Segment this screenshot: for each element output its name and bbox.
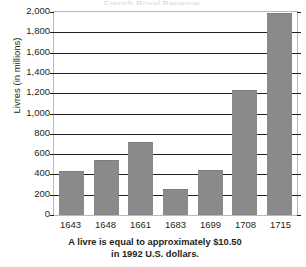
y-tick-label: 1,000 [14,108,50,118]
y-tick-label: 1,200 [14,87,50,97]
x-tick-label: 1643 [53,219,88,230]
y-tick-mark-right [297,12,301,13]
y-tick-mark-right [297,93,301,94]
bar-1699[interactable] [198,170,223,215]
y-tick-label: 200 [14,189,50,199]
y-tick-mark-right [297,53,301,54]
y-tick-label: 600 [14,148,50,158]
x-tick-label: 1683 [158,219,193,230]
bar-1643[interactable] [59,171,84,215]
y-tick-label: 2,000 [14,6,50,16]
bar-slot [193,12,228,215]
y-tick-label: 0 [14,209,50,219]
x-tick-label: 1699 [193,219,228,230]
x-tick-label: 1715 [263,219,298,230]
y-tick-label: 1,800 [14,26,50,36]
y-axis-tick-labels: 02004006008001,0001,2001,4001,6001,8002,… [14,6,50,220]
y-tick-mark-right [297,134,301,135]
bar-slot [228,12,263,215]
bar-1715[interactable] [267,13,292,215]
y-tick-mark-right [297,195,301,196]
y-tick-mark-right [297,174,301,175]
clipped-chart-title: French Royal Revenue [62,0,242,5]
bar-1661[interactable] [128,142,153,215]
y-tick-mark-left [50,215,54,216]
y-tick-label: 800 [14,128,50,138]
bar-slot [123,12,158,215]
y-tick-label: 400 [14,168,50,178]
figure-caption: A livre is equal to approximately $10.50… [24,237,286,260]
y-tick-label: 1,400 [14,67,50,77]
bar-slot [89,12,124,215]
bar-1648[interactable] [94,160,119,215]
x-tick-label: 1648 [88,219,123,230]
bar-1683[interactable] [163,189,188,215]
bar-chart-figure: French Royal Revenue Livres (in millions… [0,0,306,267]
x-tick-label: 1708 [228,219,263,230]
caption-line-1: A livre is equal to approximately $10.50 [24,237,286,249]
x-tick-label: 1661 [123,219,158,230]
y-tick-label: 1,600 [14,47,50,57]
bar-slot [158,12,193,215]
x-axis-tick-labels: 1643164816611683169917081715 [53,219,298,230]
bar-slot [54,12,89,215]
bars-group [54,12,297,215]
bar-1708[interactable] [232,90,257,215]
plot-area [53,11,298,216]
y-tick-mark-right [297,154,301,155]
y-tick-mark-right [297,114,301,115]
bar-slot [262,12,297,215]
y-tick-mark-right [297,32,301,33]
y-tick-mark-right [297,73,301,74]
caption-line-2: in 1992 U.S. dollars. [24,249,286,261]
y-tick-mark-right [297,215,301,216]
